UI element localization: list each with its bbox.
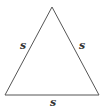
bottom-side-label: s: [50, 96, 56, 109]
equilateral-triangle-diagram: s s s: [0, 0, 100, 110]
left-side-label: s: [20, 39, 26, 52]
right-side-label: s: [79, 39, 85, 52]
